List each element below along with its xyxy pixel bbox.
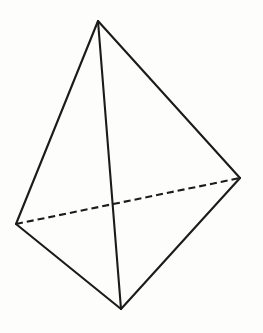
tetrahedron-diagram: Tetrahedron bbox=[0, 0, 263, 333]
edge-left-right-hidden bbox=[16, 178, 240, 224]
figure-canvas: Tetrahedron bbox=[0, 0, 263, 333]
edge-apex-right bbox=[98, 21, 240, 178]
edge-apex-bottom bbox=[98, 21, 121, 309]
edge-left-bottom bbox=[16, 224, 121, 309]
edge-right-bottom bbox=[121, 178, 240, 309]
edge-apex-left bbox=[16, 21, 98, 224]
